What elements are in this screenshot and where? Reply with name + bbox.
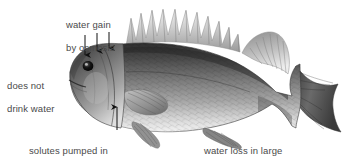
label-solutes-line1: solutes pumped in [29, 145, 108, 157]
label-water-gain-line2: by osmosis [66, 42, 115, 54]
osmoregulation-figure: water gain by osmosis does not drink wat… [0, 0, 358, 167]
label-does-not-drink-water: does not drink water [7, 68, 55, 126]
label-water-gain-line1: water gain [66, 19, 115, 31]
label-water-gain: water gain by osmosis [66, 7, 115, 65]
label-water-loss: water loss in large volume of dilute uri… [204, 133, 297, 167]
label-water-loss-line1: water loss in large [204, 145, 297, 157]
label-does-not-drink-line1: does not [7, 80, 55, 92]
label-does-not-drink-line2: drink water [7, 103, 55, 115]
label-solutes-pumped-in: solutes pumped in by cells in gills [29, 133, 108, 167]
